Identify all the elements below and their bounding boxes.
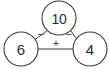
operator-label-left-right: + — [53, 37, 59, 49]
fact-family-triangle-diagram: 10 6 4 − − + — [0, 0, 109, 70]
operator-label-top-left: − — [38, 28, 44, 40]
operator-label-top-right: − — [66, 28, 72, 40]
node-value-top: 10 — [51, 11, 67, 27]
node-value-left: 6 — [17, 41, 25, 58]
diagram-canvas: 10 6 4 − − + — [0, 0, 109, 70]
node-value-right: 4 — [86, 41, 94, 58]
